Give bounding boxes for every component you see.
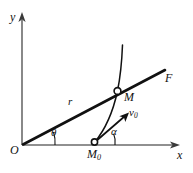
point-label-M: M — [124, 91, 134, 103]
radius-label-r: r — [68, 96, 72, 107]
alpha-angle-label: α — [111, 126, 117, 137]
radius-force-ray — [23, 70, 165, 145]
x-axis-label: x — [177, 149, 182, 161]
origin-label: O — [10, 144, 19, 156]
initial-velocity-label-v0: v0 — [129, 107, 138, 120]
point-marker-M0 — [91, 139, 97, 145]
y-axis-label: y — [10, 11, 15, 23]
point-label-M0-base: M — [87, 147, 97, 161]
point-label-M0-subscript: 0 — [97, 153, 101, 162]
initial-velocity-vector — [95, 116, 125, 142]
point-label-M0: M0 — [87, 148, 101, 162]
force-ray-label-F: F — [165, 72, 172, 84]
physics-diagram: y x O F r M M0 v0 θ α — [0, 0, 193, 173]
theta-angle-label: θ — [51, 127, 56, 138]
point-marker-M — [114, 88, 121, 95]
velocity-label-subscript: 0 — [134, 111, 138, 120]
